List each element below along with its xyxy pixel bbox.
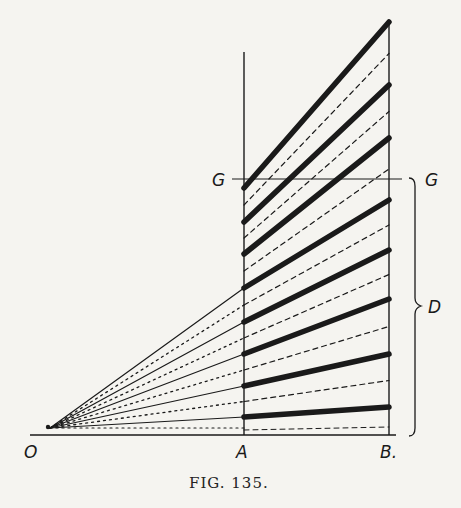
- figure-135: O A B. G G D FIG. 135.: [0, 0, 461, 508]
- label-a: A: [235, 442, 248, 462]
- fan-rays: [46, 288, 244, 429]
- dashed-line: [244, 112, 389, 239]
- fan-solid-ray: [50, 322, 244, 428]
- diagram-canvas: O A B. G G D FIG. 135.: [0, 0, 461, 508]
- brace-d: [409, 178, 421, 436]
- fan-dotted-ray: [50, 305, 244, 428]
- bold-band: [244, 250, 389, 322]
- origin-point: [46, 425, 50, 429]
- dashed-line: [244, 169, 389, 271]
- dashed-line: [244, 54, 389, 206]
- label-b: B.: [380, 442, 397, 462]
- bold-band: [244, 200, 389, 288]
- label-g-left: G: [212, 170, 225, 190]
- bold-band: [244, 354, 389, 386]
- bold-band: [244, 299, 389, 354]
- figure-caption: FIG. 135.: [189, 474, 269, 492]
- label-d: D: [428, 297, 441, 317]
- fan-dotted-ray: [50, 370, 244, 428]
- fan-solid-ray: [50, 354, 244, 428]
- bold-band: [244, 407, 389, 417]
- label-o: O: [24, 442, 37, 462]
- label-g-right: G: [425, 170, 438, 190]
- dashed-line: [244, 427, 389, 430]
